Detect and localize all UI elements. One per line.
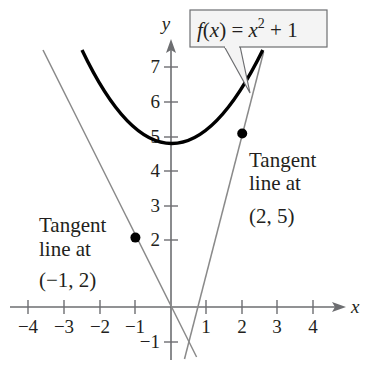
annotation-left-tangent: Tangent line at (−1, 2) bbox=[39, 213, 107, 292]
x-axis bbox=[10, 300, 346, 314]
function-label: f(x) = x2 + 1 bbox=[197, 16, 298, 42]
x-tick-labels: −4 −3 −2 −1 1 2 3 4 bbox=[18, 316, 318, 337]
svg-text:(2, 5): (2, 5) bbox=[249, 204, 295, 228]
x-tick-label: −3 bbox=[54, 316, 74, 337]
annotation-right-tangent: Tangent line at (2, 5) bbox=[249, 148, 317, 228]
y-tick-label: 7 bbox=[151, 56, 161, 77]
y-tick-label: 4 bbox=[151, 160, 161, 181]
svg-text:Tangent: Tangent bbox=[249, 148, 317, 172]
svg-text:line at: line at bbox=[249, 171, 301, 195]
x-tick-label: 3 bbox=[272, 316, 282, 337]
function-callout: f(x) = x2 + 1 bbox=[190, 10, 327, 93]
y-tick-label: 6 bbox=[151, 91, 161, 112]
svg-text:line at: line at bbox=[39, 237, 91, 261]
svg-text:(−1, 2): (−1, 2) bbox=[39, 268, 96, 292]
x-axis-label: x bbox=[350, 296, 360, 317]
y-tick-label: −1 bbox=[140, 331, 160, 352]
x-tick-label: 2 bbox=[237, 316, 247, 337]
tangent-point-right bbox=[237, 129, 247, 139]
svg-text:Tangent: Tangent bbox=[39, 213, 107, 237]
y-axis bbox=[164, 39, 178, 360]
x-tick-label: −2 bbox=[90, 316, 110, 337]
callout-pointer bbox=[224, 46, 250, 93]
function-graph-figure: −4 −3 −2 −1 1 2 3 4 x y 7 6 5 4 3 2 −1 bbox=[0, 0, 370, 373]
x-tick-label: 4 bbox=[308, 316, 318, 337]
y-tick-label: 5 bbox=[151, 126, 161, 147]
x-tick-label: −4 bbox=[18, 316, 39, 337]
x-tick-label: 1 bbox=[201, 316, 211, 337]
y-axis-label: y bbox=[160, 13, 171, 34]
y-tick-label: 3 bbox=[151, 195, 161, 216]
y-tick-label: 2 bbox=[151, 229, 161, 250]
tangent-line-left bbox=[43, 50, 197, 357]
tangent-point-left bbox=[130, 233, 140, 243]
